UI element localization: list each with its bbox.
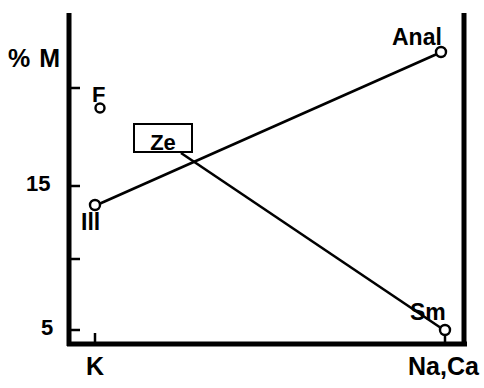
x-tick-label-k: K (86, 354, 104, 379)
data-point-sm (440, 325, 450, 335)
annotation-box-ze: Ze (133, 123, 193, 153)
chart-figure: % M 15 5 K Na,Ca F Ill Anal Sm Ze (0, 0, 484, 388)
series-line-sm (181, 153, 441, 328)
y-axis-title: % M (8, 46, 61, 71)
x-tick-label-naca: Na,Ca (408, 354, 479, 379)
data-point-label-f: F (92, 84, 105, 106)
chart-plot-area (0, 0, 484, 388)
y-tick-label-15: 15 (26, 173, 50, 195)
data-point-label-anal: Anal (392, 26, 442, 49)
data-point-label-sm: Sm (410, 301, 446, 324)
y-tick-label-5: 5 (41, 317, 53, 339)
annotation-label-ze: Ze (135, 130, 191, 156)
data-point-label-ill: Ill (81, 211, 100, 234)
